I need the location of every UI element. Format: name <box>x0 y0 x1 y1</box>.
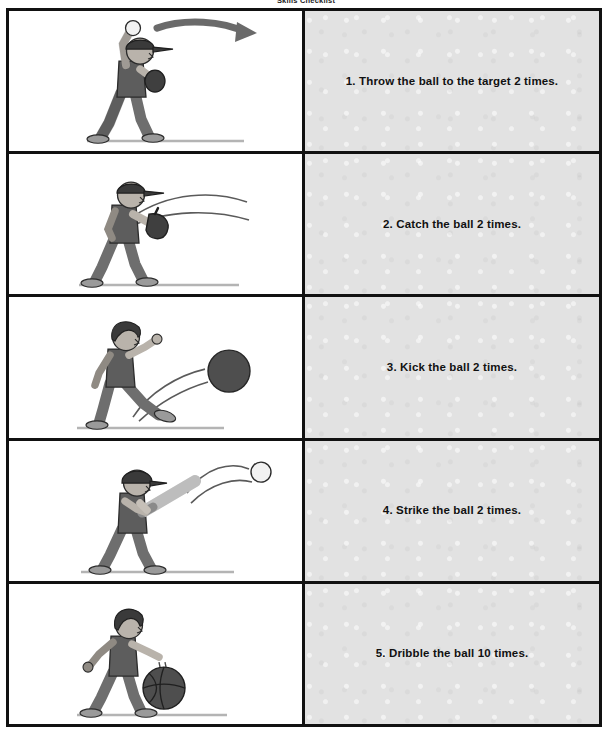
child-kicking-ball-illustration <box>9 297 302 437</box>
instruction-text: 4. Strike the ball 2 times. <box>383 503 521 518</box>
instruction-cell: 3. Kick the ball 2 times. <box>305 297 599 437</box>
table-row: 1. Throw the ball to the target 2 times. <box>9 11 599 154</box>
child-striking-ball-with-bat-illustration <box>9 441 302 581</box>
skills-checklist-table: 1. Throw the ball to the target 2 times. <box>6 8 602 727</box>
instruction-text: 1. Throw the ball to the target 2 times. <box>346 74 558 89</box>
instruction-cell: 1. Throw the ball to the target 2 times. <box>305 11 599 151</box>
instruction-text: 5. Dribble the ball 10 times. <box>376 646 529 661</box>
illustration-cell-catch <box>9 154 305 294</box>
instruction-cell: 4. Strike the ball 2 times. <box>305 441 599 581</box>
illustration-cell-strike <box>9 441 305 581</box>
child-dribbling-basketball-illustration <box>9 584 302 724</box>
instruction-cell: 5. Dribble the ball 10 times. <box>305 584 599 724</box>
child-catching-ball-with-glove-illustration <box>9 154 302 294</box>
table-row: 3. Kick the ball 2 times. <box>9 297 599 440</box>
table-row: 4. Strike the ball 2 times. <box>9 441 599 584</box>
table-row: 5. Dribble the ball 10 times. <box>9 584 599 724</box>
illustration-cell-kick <box>9 297 305 437</box>
page-header: Skills Checklist <box>0 0 612 5</box>
illustration-cell-dribble <box>9 584 305 724</box>
child-throwing-ball-overhead-illustration <box>9 11 302 151</box>
instruction-text: 3. Kick the ball 2 times. <box>387 360 517 375</box>
instruction-text: 2. Catch the ball 2 times. <box>383 217 521 232</box>
instruction-cell: 2. Catch the ball 2 times. <box>305 154 599 294</box>
table-row: 2. Catch the ball 2 times. <box>9 154 599 297</box>
page-header-title: Skills Checklist <box>0 0 612 5</box>
illustration-cell-throw <box>9 11 305 151</box>
